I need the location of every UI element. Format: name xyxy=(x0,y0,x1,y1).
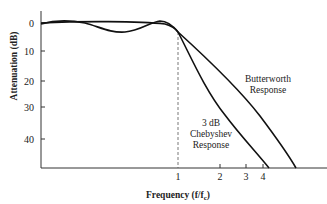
svg-text:Chebyshev: Chebyshev xyxy=(190,129,232,139)
y-tick-label: 10 xyxy=(24,46,34,57)
svg-text:Response: Response xyxy=(250,85,286,95)
x-tick-label: 4 xyxy=(261,171,266,182)
x-axis-title: Frequency (f/fc) xyxy=(146,190,210,202)
y-tick-label: 30 xyxy=(24,102,34,113)
butterworth-label: Butterworth Response xyxy=(245,74,291,95)
chebyshev-curve xyxy=(41,21,269,168)
x-tick-label: 1 xyxy=(176,171,181,182)
attenuation-chart: 0 10 20 30 40 1 2 3 4 Butterworth Respon… xyxy=(0,0,327,204)
y-tick-label: 20 xyxy=(24,76,34,87)
y-tick-label: 40 xyxy=(24,134,34,145)
x-ticks: 1 2 3 4 xyxy=(176,164,266,182)
chebyshev-label: 3 dB Chebyshev Response xyxy=(190,118,232,150)
svg-text:Response: Response xyxy=(193,140,229,150)
svg-text:3 dB: 3 dB xyxy=(202,118,220,128)
y-tick-label: 0 xyxy=(29,18,34,29)
y-axis-title: Attenuation (dB) xyxy=(9,32,20,101)
y-ticks: 0 10 20 30 40 xyxy=(24,18,45,145)
x-tick-label: 3 xyxy=(244,171,249,182)
svg-text:Butterworth: Butterworth xyxy=(245,74,291,84)
x-tick-label: 2 xyxy=(218,171,223,182)
